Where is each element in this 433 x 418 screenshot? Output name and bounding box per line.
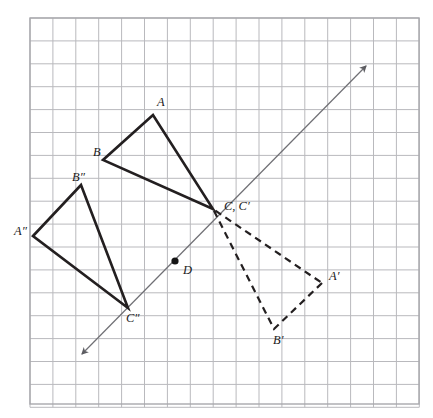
point-label-bprime: B′ bbox=[273, 333, 284, 347]
point-label-adbl: A″ bbox=[13, 224, 28, 238]
point-label-d: D bbox=[182, 263, 192, 277]
point-marker-d bbox=[171, 257, 178, 264]
point-label-bdbl: B″ bbox=[72, 170, 86, 184]
point-label-b: B bbox=[93, 145, 101, 159]
point-label-a: A bbox=[156, 95, 165, 109]
point-label-aprime: A′ bbox=[328, 269, 340, 283]
point-label-c: C, C′ bbox=[224, 199, 250, 213]
point-label-cdbl: C″ bbox=[126, 311, 140, 325]
geometry-figure: ABC, C′A′B′A″B″C″D bbox=[0, 0, 433, 418]
figure-background bbox=[0, 0, 433, 418]
figure-canvas: ABC, C′A′B′A″B″C″D bbox=[0, 0, 433, 418]
